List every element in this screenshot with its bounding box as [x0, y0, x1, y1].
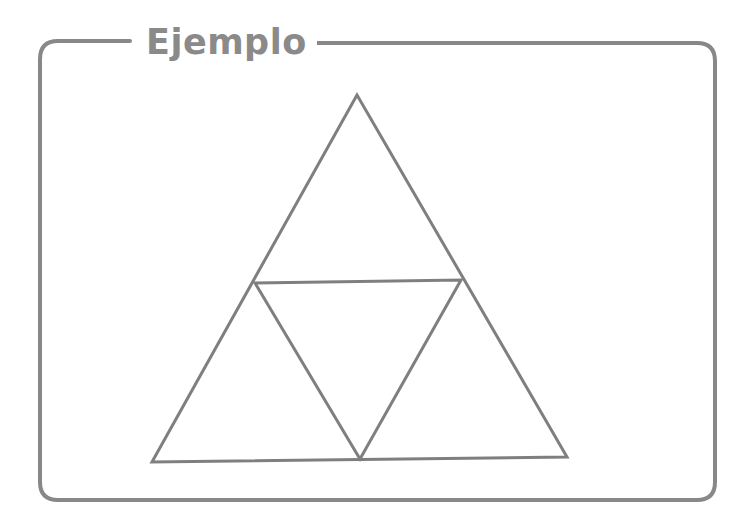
inner-triangle	[255, 280, 461, 459]
outer-triangle	[152, 95, 567, 462]
triangle-diagram	[0, 0, 742, 523]
panel-border	[40, 41, 715, 500]
panel-title: Ejemplo	[142, 16, 317, 68]
example-panel: Ejemplo	[0, 0, 742, 523]
